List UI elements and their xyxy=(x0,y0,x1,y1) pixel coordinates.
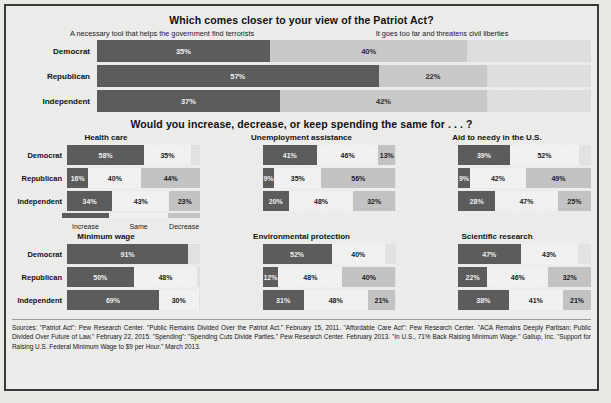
legend-label: Increase xyxy=(62,223,109,230)
spending-segment-remainder xyxy=(188,244,200,264)
spending-chart: Aid to needy in the U.S.Democrat39%52%Re… xyxy=(403,133,591,230)
spending-segment-increase: 16% xyxy=(67,168,88,188)
patriot-bar-track: 35%40% xyxy=(97,40,591,62)
spending-row-label: Independent xyxy=(12,296,67,305)
spending-row: Independent38%41%21% xyxy=(403,290,591,310)
spending-segment-increase: 58% xyxy=(67,145,144,165)
spending-segment-decrease: 56% xyxy=(321,168,395,188)
spending-segment-remainder xyxy=(578,244,591,264)
spending-segment-increase: 12% xyxy=(263,267,279,287)
spending-chart-title: Scientific research xyxy=(403,232,591,241)
spending-segment-decrease: 23% xyxy=(169,191,200,211)
spending-chart-title: Unemployment assistance xyxy=(208,133,396,142)
spending-chart: Minimum wageDemocrat91%Republican50%48%I… xyxy=(12,232,200,313)
spending-segment-increase: 9% xyxy=(263,168,275,188)
sources-note: Sources: "Patriot Act": Pew Research Cen… xyxy=(12,319,591,351)
legend-swatches xyxy=(12,213,200,222)
spending-chart-title: Environmental protection xyxy=(208,232,396,241)
spending-bar-track: 22%46%32% xyxy=(458,267,591,287)
patriot-segment-remainder xyxy=(487,90,591,112)
patriot-act-chart: Democrat35%40%Republican57%22%Independen… xyxy=(12,40,591,112)
spending-segment-same: 48% xyxy=(278,267,342,287)
option-label-b: It goes too far and threatens civil libe… xyxy=(312,29,572,38)
spending-segment-same: 40% xyxy=(332,244,385,264)
patriot-bar-track: 37%42% xyxy=(97,90,591,112)
spending-row: Republican9%35%56% xyxy=(208,168,396,188)
spending-bar-track: 28%47%25% xyxy=(458,191,591,211)
spending-row: Republican50%48% xyxy=(12,267,200,287)
spending-bar-track: 31%48%21% xyxy=(263,290,396,310)
spending-segment-increase: 41% xyxy=(263,145,318,165)
spending-segment-same: 42% xyxy=(470,168,526,188)
spending-row: Republican9%42%49% xyxy=(403,168,591,188)
patriot-segment-remainder xyxy=(487,65,591,87)
spending-segment-increase: 47% xyxy=(458,244,521,264)
legend-swatch-dec xyxy=(168,213,200,222)
spending-segment-same: 46% xyxy=(487,267,548,287)
spending-chart: Health careDemocrat58%35%Republican16%40… xyxy=(12,133,200,230)
spending-segment-increase: 52% xyxy=(263,244,332,264)
spending-segment-same: 48% xyxy=(304,290,368,310)
patriot-segment-goes-too-far: 42% xyxy=(280,90,487,112)
patriot-row-label: Democrat xyxy=(12,47,97,56)
spending-segment-same: 40% xyxy=(88,168,141,188)
patriot-segment-remainder xyxy=(467,40,591,62)
legend-swatch-same xyxy=(109,213,168,222)
spending-segment-same: 48% xyxy=(289,191,353,211)
spending-segment-increase: 91% xyxy=(67,244,188,264)
spending-bar-track: 20%48%32% xyxy=(263,191,396,211)
option-label-a: A necessary tool that helps the governme… xyxy=(12,29,312,38)
spending-chart-title: Minimum wage xyxy=(12,232,200,241)
spending-segment-decrease: 13% xyxy=(378,145,395,165)
spending-segment-same: 43% xyxy=(112,191,169,211)
legend-label: Decrease xyxy=(168,223,200,230)
spending-segment-decrease: 21% xyxy=(368,290,396,310)
spending-segment-remainder xyxy=(385,244,396,264)
spending-row: Democrat91% xyxy=(12,244,200,264)
legend-labels: IncreaseSameDecrease xyxy=(12,223,200,230)
spending-segment-decrease: 25% xyxy=(558,191,591,211)
spending-bar-track: 91% xyxy=(67,244,200,264)
spending-segment-decrease: 21% xyxy=(563,290,591,310)
spending-segment-increase: 9% xyxy=(458,168,470,188)
spending-chart-title: Aid to needy in the U.S. xyxy=(403,133,591,142)
spending-row: Democrat41%46%13% xyxy=(208,145,396,165)
spending-chart-title: Health care xyxy=(12,133,200,142)
spending-bar-track: 38%41%21% xyxy=(458,290,591,310)
patriot-segment-goes-too-far: 40% xyxy=(270,40,468,62)
spending-segment-same: 35% xyxy=(144,145,191,165)
spending-segment-same: 43% xyxy=(521,244,578,264)
spending-bar-track: 39%52% xyxy=(458,145,591,165)
spending-segment-increase: 39% xyxy=(458,145,510,165)
spending-segment-same: 52% xyxy=(510,145,579,165)
spending-row: Republican12%48%40% xyxy=(208,267,396,287)
spending-bar-track: 9%35%56% xyxy=(263,168,396,188)
spending-segment-increase: 34% xyxy=(67,191,112,211)
patriot-segment-goes-too-far: 22% xyxy=(379,65,488,87)
patriot-row: Democrat35%40% xyxy=(12,40,591,62)
spending-bar-track: 50%48% xyxy=(67,267,200,287)
patriot-row-label: Republican xyxy=(12,72,97,81)
spending-bar-track: 52%40% xyxy=(263,244,396,264)
spending-segment-increase: 28% xyxy=(458,191,495,211)
spending-segment-decrease: 40% xyxy=(342,267,395,287)
patriot-row: Independent37%42% xyxy=(12,90,591,112)
spending-row-label: Republican xyxy=(12,273,67,282)
spending-segment-remainder xyxy=(199,290,200,310)
patriot-act-option-labels: A necessary tool that helps the governme… xyxy=(12,29,591,38)
legend-label: Same xyxy=(109,223,168,230)
patriot-segment-necessary-tool: 57% xyxy=(97,65,379,87)
spending-row: Republican22%46%32% xyxy=(403,267,591,287)
spending-row: Democrat58%35% xyxy=(12,145,200,165)
spending-segment-same: 48% xyxy=(134,267,198,287)
legend-swatch-inc xyxy=(62,213,109,222)
spending-bar-track: 47%43% xyxy=(458,244,591,264)
patriot-act-title: Which comes closer to your view of the P… xyxy=(12,14,591,26)
spending-segment-same: 30% xyxy=(159,290,199,310)
spending-segment-decrease: 32% xyxy=(548,267,591,287)
spending-bar-track: 16%40%44% xyxy=(67,168,200,188)
spending-segment-remainder xyxy=(197,267,200,287)
spending-row: Independent28%47%25% xyxy=(403,191,591,211)
spending-bar-track: 69%30% xyxy=(67,290,200,310)
spending-row-label: Independent xyxy=(12,197,67,206)
